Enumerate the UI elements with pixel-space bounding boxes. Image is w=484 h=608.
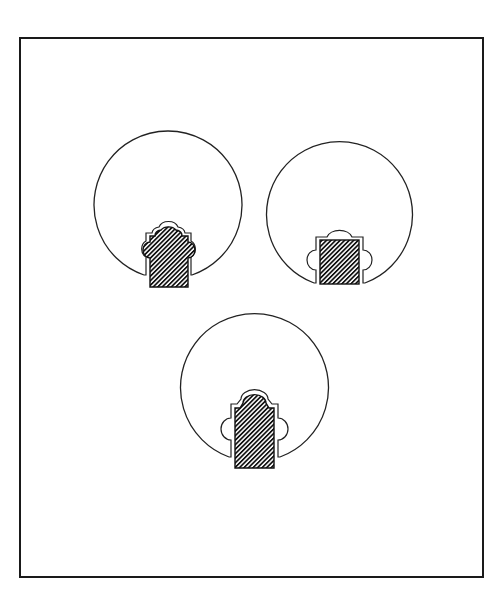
circle-keyhole-1 xyxy=(94,131,242,287)
hatched-insert xyxy=(320,240,359,284)
circle-keyhole-2 xyxy=(267,142,413,284)
hatched-insert xyxy=(143,227,195,287)
diagram-canvas xyxy=(0,0,484,608)
circle-keyhole-3 xyxy=(181,314,329,468)
figure-frame xyxy=(20,38,483,577)
hatched-insert xyxy=(235,395,274,468)
